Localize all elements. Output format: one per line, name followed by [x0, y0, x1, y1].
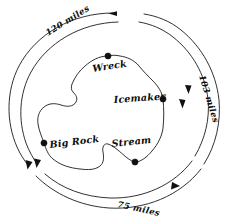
label-big-rock: Big Rock — [48, 133, 100, 150]
inner-arc-arrow-right-upper — [185, 85, 192, 94]
dot-stream[interactable] — [132, 159, 138, 165]
label-icemaker: Icemaker — [112, 90, 166, 105]
dot-wreck[interactable] — [105, 53, 111, 59]
dot-big-rock[interactable] — [41, 140, 47, 146]
landmark-labels: Wreck Icemaker Big Rock Stream — [48, 58, 167, 150]
outer-arc-arrow-top — [109, 11, 118, 16]
outer-arc-arrow-left — [26, 160, 33, 170]
label-distance-right: 103 miles — [197, 74, 221, 124]
inner-arc-arrow-left — [34, 159, 41, 169]
label-stream: Stream — [111, 134, 152, 149]
map-canvas: Wreck Icemaker Big Rock Stream 120 miles… — [0, 0, 230, 224]
label-wreck: Wreck — [92, 58, 128, 74]
island-distance-map: Wreck Icemaker Big Rock Stream 120 miles… — [0, 0, 230, 224]
label-distance-top: 120 miles — [44, 3, 91, 38]
inner-range-arc — [21, 22, 209, 198]
outer-range-arc — [9, 11, 219, 208]
inner-arc-arrow-bottom-right — [171, 182, 180, 190]
inner-arc-arrow-right-lower — [179, 99, 186, 109]
distance-labels: 120 miles 103 miles 75 miles — [44, 3, 221, 218]
